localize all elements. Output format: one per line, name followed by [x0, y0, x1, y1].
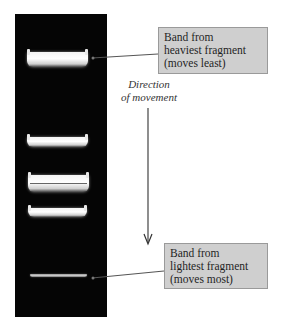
- callout-lightest-line2: lightest fragment: [170, 260, 263, 273]
- callout-lightest-fragment: Band from lightest fragment (moves most): [164, 243, 268, 289]
- callout-heaviest-line3: (moves least): [164, 57, 263, 70]
- leader-line-heaviest: [92, 54, 158, 58]
- callout-heaviest-line1: Band from: [164, 31, 263, 44]
- callout-heaviest-fragment: Band from heaviest fragment (moves least…: [158, 27, 268, 74]
- callout-lightest-line1: Band from: [170, 247, 263, 260]
- callout-lightest-line3: (moves most): [170, 273, 263, 286]
- direction-label-line2: of movement: [116, 91, 182, 104]
- leader-line-lightest: [92, 271, 164, 278]
- leader-dot-heaviest: [92, 57, 95, 60]
- callout-heaviest-line2: heaviest fragment: [164, 44, 263, 57]
- leader-dot-lightest: [92, 277, 95, 280]
- direction-label-line1: Direction: [116, 78, 182, 91]
- direction-label: Direction of movement: [116, 78, 182, 104]
